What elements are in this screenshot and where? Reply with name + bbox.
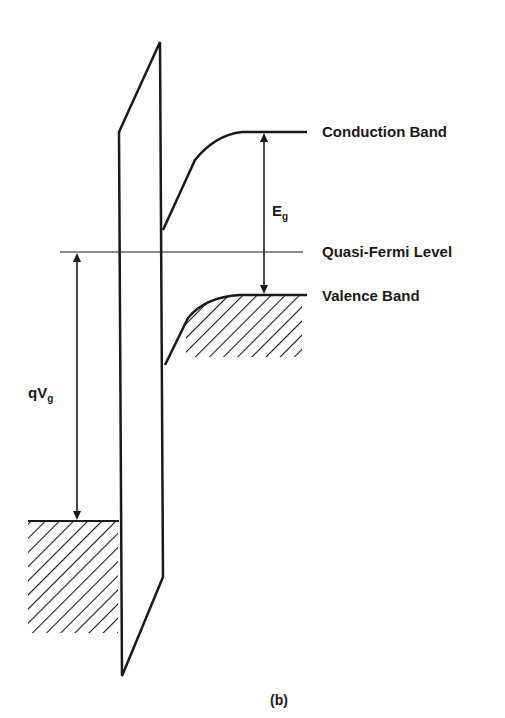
figure-caption: (b): [270, 692, 288, 708]
valence-band-label: Valence Band: [322, 287, 420, 304]
oxide-layer: [119, 42, 163, 676]
gate-voltage-symbol: qV: [28, 384, 47, 401]
gate-voltage-arrow: [73, 253, 81, 520]
metal-region: [28, 521, 119, 633]
quasi-fermi-level-label: Quasi-Fermi Level: [322, 243, 452, 260]
gate-voltage-label: qVg: [28, 384, 53, 404]
band-diagram: [0, 0, 505, 718]
bandgap-arrow: [260, 133, 268, 294]
valence-filled-region: [180, 290, 305, 360]
gate-voltage-subscript: g: [47, 393, 53, 404]
bandgap-symbol: E: [272, 202, 282, 219]
bandgap-label: Eg: [272, 202, 288, 222]
bandgap-subscript: g: [282, 211, 288, 222]
conduction-band-label: Conduction Band: [322, 123, 447, 140]
